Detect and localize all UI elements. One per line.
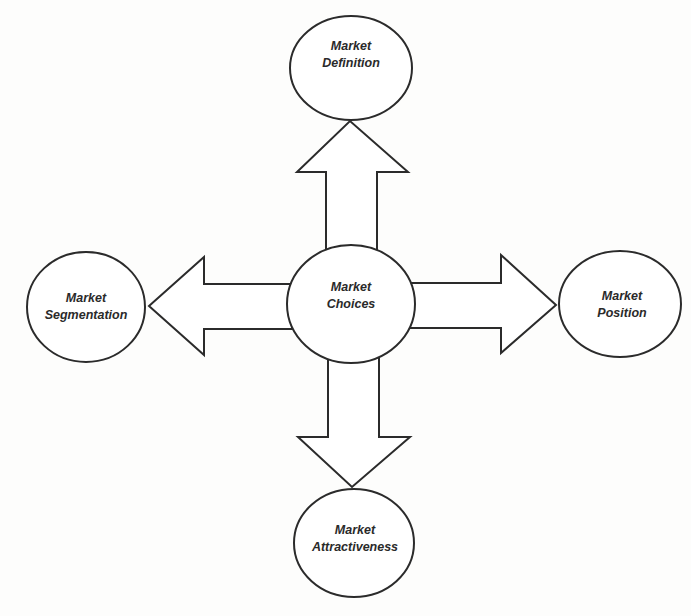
label-line-1: Market — [45, 290, 128, 307]
label-line-1: Market — [322, 38, 380, 55]
label-line-2: Segmentation — [45, 307, 128, 324]
label-line-1: Market — [312, 522, 398, 539]
node-market-attractiveness-label: Market Attractiveness — [312, 522, 398, 556]
arrow-up-to-market-definition — [297, 121, 408, 250]
label-line-2: Position — [597, 305, 646, 322]
label-line-1: Market — [327, 279, 376, 296]
arrow-left-to-market-segmentation — [149, 257, 292, 355]
label-line-2: Definition — [322, 55, 380, 72]
label-line-1: Market — [597, 288, 646, 305]
diagram-canvas: Market Choices Market Definition Market … — [0, 0, 691, 616]
arrow-right-to-market-position — [410, 255, 556, 353]
node-market-definition-label: Market Definition — [322, 38, 380, 72]
node-market-segmentation-label: Market Segmentation — [45, 290, 128, 324]
node-market-position-label: Market Position — [597, 288, 646, 322]
label-line-2: Choices — [327, 296, 376, 313]
node-market-choices-label: Market Choices — [327, 279, 376, 313]
label-line-2: Attractiveness — [312, 539, 398, 556]
arrow-down-to-market-attractiveness — [298, 356, 410, 487]
